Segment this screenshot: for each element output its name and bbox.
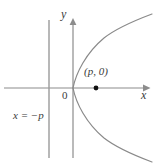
directrix-label: x = −p <box>13 110 44 121</box>
focus-point <box>94 86 99 91</box>
focus-point-label: (p, 0) <box>84 66 108 77</box>
x-axis <box>4 85 151 92</box>
parabola-diagram: y x 0 (p, 0) x = −p <box>0 0 154 165</box>
origin-label: 0 <box>62 90 68 101</box>
y-axis-arrowhead <box>70 18 77 25</box>
diagram-canvas <box>0 0 154 165</box>
y-axis-label: y <box>61 8 66 20</box>
x-axis-label: x <box>141 89 146 101</box>
